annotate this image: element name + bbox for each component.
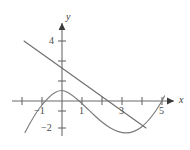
plot-canvas [0,0,190,150]
x-tick-label-neg1: −1 [34,106,45,116]
y-axis-label: y [66,12,70,22]
y-tick-label-4: 4 [49,36,54,46]
y-tick-label-neg2: −2 [41,123,52,133]
x-axis-label: x [179,95,183,105]
y-axis-arrow-icon [59,23,66,30]
x-tick-label-3: 3 [119,106,124,116]
x-axis-arrow-icon [167,98,174,105]
x-tick-label-1: 1 [79,106,84,116]
graph-figure: x y −1 1 3 5 4 −2 [0,0,190,150]
x-tick-label-5: 5 [159,106,164,116]
